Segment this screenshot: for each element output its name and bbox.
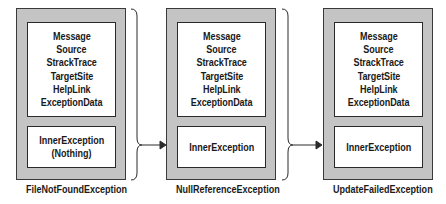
exception-box-updatefailed: Message Source StrackTrace TargetSite He… <box>323 8 433 180</box>
exception-properties: Message Source StrackTrace TargetSite He… <box>27 22 116 117</box>
brace-1 <box>131 9 142 180</box>
arrow-1 <box>142 141 166 149</box>
property-targetsite: TargetSite <box>50 70 93 83</box>
inner-exception-label: InnerException <box>346 141 411 154</box>
brace-2 <box>282 9 293 180</box>
property-message: Message <box>360 30 398 43</box>
property-stacktrace: StrackTrace <box>353 56 403 69</box>
exception-box-nullreference: Message Source StrackTrace TargetSite He… <box>166 8 276 180</box>
property-message: Message <box>203 30 241 43</box>
property-helplink: HelpLink <box>360 83 397 96</box>
exception-caption: FileNotFoundException <box>26 183 116 195</box>
exception-box-filenotfound: Message Source StrackTrace TargetSite He… <box>16 8 126 180</box>
property-exceptiondata: ExceptionData <box>191 96 253 109</box>
property-exceptiondata: ExceptionData <box>41 96 103 109</box>
exception-caption: UpdateFailedException <box>333 183 423 195</box>
property-stacktrace: StrackTrace <box>46 56 96 69</box>
inner-exception-box: InnerException <box>177 126 266 168</box>
property-targetsite: TargetSite <box>357 70 400 83</box>
property-source: Source <box>206 43 236 56</box>
exception-caption: NullReferenceException <box>176 183 266 195</box>
property-source: Source <box>363 43 393 56</box>
property-helplink: HelpLink <box>53 83 90 96</box>
inner-exception-label: InnerException <box>39 134 104 147</box>
inner-exception-box: InnerException <box>334 126 423 168</box>
inner-exception-value: (Nothing) <box>51 147 91 160</box>
property-targetsite: TargetSite <box>200 70 243 83</box>
property-message: Message <box>53 30 91 43</box>
inner-exception-label: InnerException <box>189 141 254 154</box>
property-stacktrace: StrackTrace <box>196 56 246 69</box>
inner-exception-box: InnerException (Nothing) <box>27 126 116 168</box>
property-exceptiondata: ExceptionData <box>348 96 410 109</box>
exception-properties: Message Source StrackTrace TargetSite He… <box>334 22 423 117</box>
property-helplink: HelpLink <box>203 83 240 96</box>
arrow-2 <box>293 141 322 149</box>
exception-properties: Message Source StrackTrace TargetSite He… <box>177 22 266 117</box>
property-source: Source <box>56 43 86 56</box>
